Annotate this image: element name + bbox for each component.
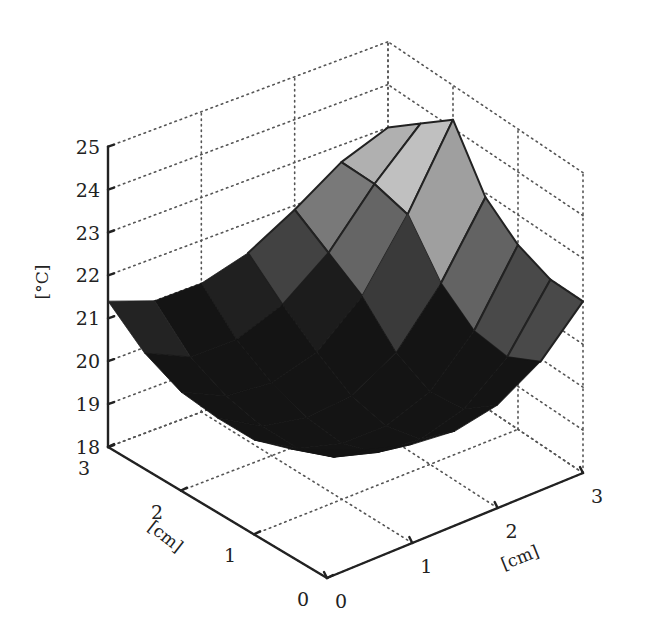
z-axis-label: [°C]: [32, 265, 52, 300]
y-tick-label: 3: [78, 457, 90, 479]
surface-plot: 181920212223242500112233 [°C] [cm] [cm]: [0, 0, 665, 623]
x-tick-label: 1: [420, 555, 432, 577]
x-tick-label: 3: [591, 485, 603, 507]
z-tick-label: 18: [76, 436, 100, 458]
z-tick-label: 20: [76, 350, 100, 372]
z-tick-label: 22: [76, 264, 100, 286]
z-tick-label: 21: [76, 307, 100, 329]
z-tick-label: 23: [76, 222, 100, 244]
z-tick-label: 24: [76, 179, 100, 201]
x-tick-label: 0: [335, 590, 347, 612]
y-tick-label: 1: [224, 544, 236, 566]
x-tick-label: 2: [506, 520, 518, 542]
y-tick-label: 0: [297, 588, 309, 610]
z-tick-label: 25: [76, 136, 100, 158]
z-tick-label: 19: [76, 393, 100, 415]
surface: [108, 120, 583, 457]
y-axis-label: [cm]: [144, 516, 187, 556]
x-axis-label: [cm]: [498, 541, 542, 574]
